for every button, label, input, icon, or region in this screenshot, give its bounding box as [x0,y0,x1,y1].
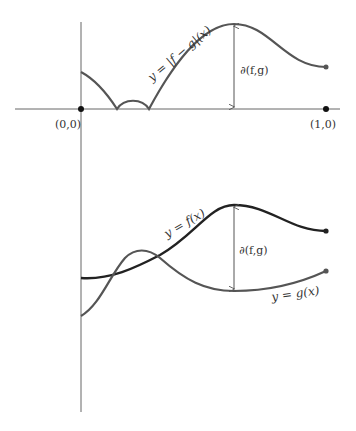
abs-curve-endpoint-dot [324,65,329,70]
g-curve [81,251,326,317]
abs-curve-label: y = |f − g|(x) [144,23,214,85]
g-endpoint-dot [323,268,328,273]
sup-distance-diagram: ∂(f,g) y = |f − g|(x) (0,0) (1,0) ∂(f,g)… [0,0,356,431]
origin-label: (0,0) [55,118,81,131]
end-point-label: (1,0) [310,118,336,131]
bottom-distance-label: ∂(f,g) [239,244,268,257]
top-distance-label: ∂(f,g) [240,64,269,77]
end-point-dot [323,106,329,112]
f-endpoint-dot [323,228,328,233]
origin-dot [78,106,84,112]
